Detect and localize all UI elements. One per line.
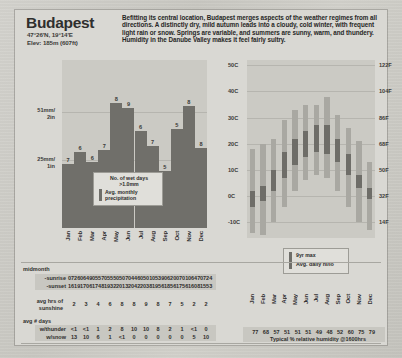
precip-wet-day-count: 8 <box>110 96 122 102</box>
thunder-cell: 1 <box>92 326 104 332</box>
thunder-cell: 0 <box>200 326 212 332</box>
temp-gridline <box>247 91 375 92</box>
sunset-cell: 2042 <box>128 283 140 289</box>
card-header: Budapest 47°26'N, 19°14'E Elev: 185m (60… <box>15 10 387 56</box>
sunrise-cell: 0507 <box>116 275 128 281</box>
temp-average-bar <box>260 186 266 202</box>
precip-legend-title: No. of wet days >1.0mm <box>98 175 160 187</box>
temp-axis-label-f: 122F <box>379 62 392 68</box>
humidity-cell: 48 <box>324 329 335 335</box>
precip-month-label: Aug <box>150 231 156 242</box>
snow-cell: 0 <box>140 334 152 340</box>
sunshine-cell: 8 <box>128 301 140 307</box>
sunset-cell: 1932 <box>104 283 116 289</box>
temp-gridline <box>247 222 375 223</box>
page-title: Budapest <box>26 14 94 32</box>
precip-month-label: Jan <box>65 231 71 241</box>
temp-average-bar <box>271 170 277 191</box>
snow-cell: 0 <box>128 334 140 340</box>
temp-gridline <box>247 118 375 119</box>
precip-month-label: Feb <box>77 231 83 241</box>
temp-month-label: Nov <box>356 294 362 305</box>
thunder-cell: <1 <box>80 326 92 332</box>
temp-average-bar <box>282 152 288 178</box>
sunshine-cell: 8 <box>152 301 164 307</box>
precip-axis-label-2in: 2in <box>21 114 55 120</box>
temp-axis-label-f: 14F <box>379 219 389 225</box>
temp-month-label: Mar <box>271 294 277 304</box>
temp-gridline <box>247 65 375 66</box>
precip-bar <box>171 129 183 228</box>
precip-wet-day-count: 8 <box>195 141 207 147</box>
page-background: Budapest 47°26'N, 19°14'E Elev: 185m (60… <box>0 0 402 358</box>
precip-wet-day-count: 6 <box>74 145 86 151</box>
sunshine-cell: 2 <box>200 301 212 307</box>
sunrise-cell: 0649 <box>80 275 92 281</box>
temp-average-bar <box>324 125 330 154</box>
humidity-cell: 51 <box>282 329 293 335</box>
temp-average-bar <box>356 175 362 188</box>
temp-average-bar <box>250 191 256 207</box>
precip-legend: No. of wet days >1.0mm Avg. monthly prec… <box>93 172 163 206</box>
thunder-cell: <1 <box>68 326 80 332</box>
climate-card: Budapest 47°26'N, 19°14'E Elev: 185m (60… <box>15 10 387 345</box>
precip-bar <box>110 103 122 228</box>
precip-axis-label-1in-mm: 25mm/ <box>21 156 55 162</box>
snow-cell: 0 <box>176 334 188 340</box>
thunder-cell: 10 <box>140 326 152 332</box>
sunset-cell: 1956 <box>152 283 164 289</box>
sunshine-cell: 5 <box>176 301 188 307</box>
temp-month-label: May <box>292 294 298 305</box>
sunrise-cell: 0726 <box>68 275 80 281</box>
sunset-cell: 1856 <box>164 283 176 289</box>
temp-axis-label-c: 20C <box>228 141 238 147</box>
thunder-cell: 8 <box>116 326 128 332</box>
precip-month-label: Oct <box>174 231 180 240</box>
sunrise-cell: 0724 <box>200 275 212 281</box>
snow-cell: 0 <box>152 334 164 340</box>
temp-axis-label-c: 10C <box>228 167 238 173</box>
temp-average-bar <box>335 139 341 163</box>
precip-wet-day-count: 6 <box>86 155 98 161</box>
precip-month-label: Jul <box>138 231 144 239</box>
precip-axis-label-1in: 1in <box>21 163 55 169</box>
temp-average-bar <box>346 154 352 175</box>
thunder-cell: <1 <box>188 326 200 332</box>
sunrise-cell: 0557 <box>92 275 104 281</box>
precip-wet-day-count: 7 <box>62 157 74 163</box>
temp-axis-label-c: 0C <box>228 193 235 199</box>
humidity-cell: 79 <box>367 329 378 335</box>
temp-axis-label-c: 40C <box>228 88 238 94</box>
precip-month-label: Nov <box>186 231 192 242</box>
temp-month-label: Jan <box>249 294 255 304</box>
sunrise-cell: 0539 <box>152 275 164 281</box>
temp-month-label: Aug <box>324 294 330 305</box>
humidity-cell: 52 <box>335 329 346 335</box>
coordinates-text: 47°26'N, 19°14'E <box>27 31 73 38</box>
elevation-text: Elev: 185m (607ft) <box>27 39 78 46</box>
precip-wet-day-count: 7 <box>98 143 110 149</box>
sunset-cell: 1619 <box>68 283 80 289</box>
thunder-cell: 1 <box>176 326 188 332</box>
precip-wet-day-count: 5 <box>171 122 183 128</box>
humidity-cell: 49 <box>314 329 325 335</box>
sunrise-cell: 0501 <box>140 275 152 281</box>
sunrise-cell: 0555 <box>104 275 116 281</box>
temp-month-label: Sep <box>335 294 341 304</box>
sunset-label: -sunset <box>23 283 66 290</box>
avg-days-label: avg # days <box>23 318 79 325</box>
precip-month-label: Sep <box>162 231 168 241</box>
table-separator-top <box>21 262 381 263</box>
temp-axis-label-c: 30C <box>228 115 238 121</box>
humidity-cell: 60 <box>345 329 356 335</box>
temp-axis-label-c: -10C <box>228 219 240 225</box>
precip-month-label: Apr <box>101 231 107 241</box>
sunshine-cell: 7 <box>164 301 176 307</box>
sunset-cell: 2013 <box>116 283 128 289</box>
precip-month-label: May <box>113 231 119 242</box>
snow-cell: 6 <box>92 334 104 340</box>
precip-wet-day-count: 8 <box>183 99 195 105</box>
sunshine-cell: 2 <box>68 301 80 307</box>
humidity-cell: 51 <box>303 329 314 335</box>
snow-cell: 0 <box>164 334 176 340</box>
